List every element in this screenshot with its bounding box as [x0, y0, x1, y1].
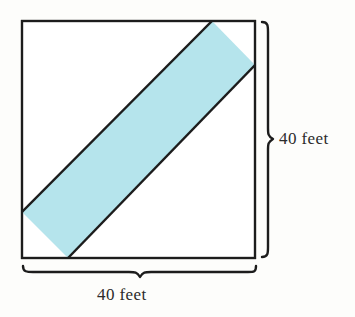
- bottom-brace: [23, 266, 256, 277]
- right-brace: [262, 22, 273, 257]
- figure-svg: [0, 0, 355, 317]
- dimension-label-right: 40 feet: [279, 129, 329, 149]
- diagram-root: 40 feet 40 feet: [0, 0, 355, 317]
- dimension-label-bottom: 40 feet: [97, 285, 147, 305]
